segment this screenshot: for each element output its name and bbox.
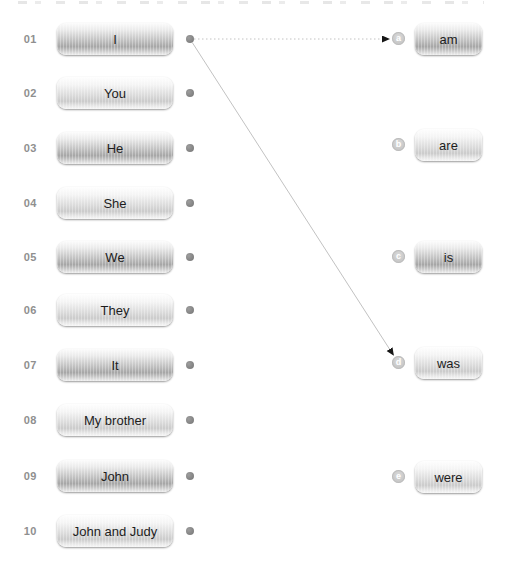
- match-row-10: 10 John and Judy: [0, 515, 507, 547]
- prompt-button-john-and-judy[interactable]: John and Judy: [57, 515, 173, 547]
- answer-button-am[interactable]: am: [415, 23, 482, 55]
- match-row-04: 04 She: [0, 187, 507, 219]
- connector-dot[interactable]: [186, 199, 194, 207]
- answer-row-d: d was: [0, 347, 507, 379]
- prompt-button-she[interactable]: She: [57, 187, 173, 219]
- row-number: 06: [0, 294, 37, 326]
- letter-badge-b[interactable]: b: [392, 138, 405, 151]
- match-row-08: 08 My brother: [0, 404, 507, 436]
- connector-dot[interactable]: [186, 306, 194, 314]
- match-row-02: 02 You: [0, 77, 507, 109]
- row-number: 04: [0, 187, 37, 219]
- letter-badge-e[interactable]: e: [392, 470, 405, 483]
- match-row-06: 06 They: [0, 294, 507, 326]
- answer-button-was[interactable]: was: [415, 347, 482, 379]
- prompt-button-they[interactable]: They: [57, 294, 173, 326]
- prompt-button-you[interactable]: You: [57, 77, 173, 109]
- answer-button-were[interactable]: were: [415, 461, 482, 493]
- row-number: 02: [0, 77, 37, 109]
- answer-button-are[interactable]: are: [415, 129, 482, 161]
- letter-badge-d[interactable]: d: [392, 356, 405, 369]
- answer-row-e: e were: [0, 461, 507, 493]
- answer-row-b: b are: [0, 129, 507, 161]
- letter-badge-c[interactable]: c: [392, 250, 405, 263]
- matching-exercise-screen: 01 I 02 You 03 He 04 She 05 We 06 They 0…: [0, 0, 507, 575]
- prompt-button-my-brother[interactable]: My brother: [57, 404, 173, 436]
- row-number: 08: [0, 404, 37, 436]
- cropped-header-text: [18, 1, 484, 4]
- connector-dot[interactable]: [186, 89, 194, 97]
- answer-row-a: a am: [0, 23, 507, 55]
- letter-badge-a[interactable]: a: [392, 32, 405, 45]
- row-number: 10: [0, 515, 37, 547]
- answer-row-c: c is: [0, 241, 507, 273]
- connector-dot[interactable]: [186, 416, 194, 424]
- connector-dot[interactable]: [186, 527, 194, 535]
- answer-button-is[interactable]: is: [415, 241, 482, 273]
